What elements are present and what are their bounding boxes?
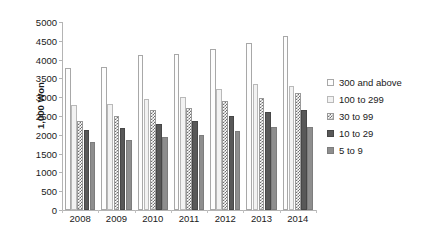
y-axis-tick-label: 1000: [17, 167, 57, 178]
bar: [199, 135, 205, 210]
bar: [283, 36, 289, 210]
x-axis-tick-label: 2009: [106, 213, 127, 224]
bar-group-inner: [171, 22, 207, 210]
bar: [77, 121, 83, 210]
bar: [192, 121, 198, 210]
bar: [246, 43, 252, 210]
bar: [301, 110, 307, 210]
bar: [253, 84, 259, 210]
y-axis-tick-label: 4500: [17, 35, 57, 46]
bar: [71, 105, 77, 210]
bar: [210, 49, 216, 210]
bar: [156, 124, 162, 210]
y-axis-tick-label: 2000: [17, 129, 57, 140]
x-axis-tick-label: 2013: [251, 213, 272, 224]
y-axis-tick-labels: 5000450040003500300025002000150010005000: [12, 0, 57, 244]
legend-item[interactable]: 30 to 99: [327, 108, 423, 125]
legend-label: 300 and above: [339, 78, 402, 88]
legend-item[interactable]: 300 and above: [327, 74, 423, 91]
legend-swatch-icon: [327, 96, 334, 103]
bar: [216, 89, 222, 210]
legend-label: 10 to 29: [339, 129, 373, 139]
bar-group: [171, 22, 207, 210]
bar-group: [243, 22, 279, 210]
x-axis-tick-mark: [316, 210, 317, 213]
chart-legend: 300 and above100 to 29930 to 9910 to 295…: [327, 74, 423, 159]
x-axis-tick-label: 2008: [70, 213, 91, 224]
bar-group: [280, 22, 316, 210]
legend-label: 100 to 299: [339, 95, 384, 105]
bar: [65, 68, 71, 211]
bar: [307, 127, 313, 210]
bar: [101, 67, 107, 210]
bar-group-inner: [243, 22, 279, 210]
y-axis-tick-label: 3000: [17, 92, 57, 103]
bar: [259, 98, 265, 210]
bar: [138, 55, 144, 210]
bar-group: [62, 22, 98, 210]
y-axis-tick-label: 1500: [17, 148, 57, 159]
legend-swatch-icon: [327, 130, 334, 137]
bar: [120, 128, 126, 210]
y-axis-tick-label: 4000: [17, 54, 57, 65]
bar: [90, 142, 96, 210]
bar: [229, 116, 235, 210]
bar: [126, 140, 132, 210]
y-axis-tick-label: 0: [17, 205, 57, 216]
y-axis-tick-label: 500: [17, 186, 57, 197]
x-axis-tick-label: 2011: [179, 213, 199, 224]
bar: [186, 108, 192, 210]
bar-group-inner: [280, 22, 316, 210]
bar-chart: 1,000 Won 500045004000350030002500200015…: [0, 0, 423, 244]
bar-group-inner: [62, 22, 98, 210]
bar: [180, 97, 186, 210]
x-axis-tick-label: 2012: [215, 213, 236, 224]
bar-group-inner: [207, 22, 243, 210]
legend-swatch-icon: [327, 113, 334, 120]
legend-item[interactable]: 100 to 299: [327, 91, 423, 108]
y-axis-tick-label: 5000: [17, 17, 57, 28]
bar: [162, 137, 168, 210]
legend-item[interactable]: 5 to 9: [327, 142, 423, 159]
bar: [295, 93, 301, 210]
bar: [150, 110, 156, 210]
bar: [114, 116, 120, 210]
bar: [144, 99, 150, 210]
x-axis-tick-label: 2010: [142, 213, 163, 224]
bar: [107, 104, 113, 210]
bar-group-inner: [98, 22, 134, 210]
bar: [222, 101, 228, 210]
x-axis-tick-labels: 2008200920102011201220132014: [62, 213, 316, 233]
y-axis-tick-label: 2500: [17, 111, 57, 122]
bar: [174, 54, 180, 210]
legend-swatch-icon: [327, 79, 334, 86]
bar: [84, 130, 90, 210]
legend-label: 5 to 9: [339, 146, 363, 156]
bar-group: [207, 22, 243, 210]
legend-swatch-icon: [327, 147, 334, 154]
bar: [271, 127, 277, 210]
bar: [289, 86, 295, 210]
y-axis-tick-label: 3500: [17, 73, 57, 84]
x-axis-tick-label: 2014: [287, 213, 308, 224]
bar-group-inner: [135, 22, 171, 210]
bar: [235, 131, 241, 210]
legend-item[interactable]: 10 to 29: [327, 125, 423, 142]
bar: [265, 112, 271, 210]
legend-label: 30 to 99: [339, 112, 373, 122]
bar-group: [135, 22, 171, 210]
plot-area: [62, 22, 316, 210]
x-axis-line: [62, 210, 316, 211]
bar-group: [98, 22, 134, 210]
